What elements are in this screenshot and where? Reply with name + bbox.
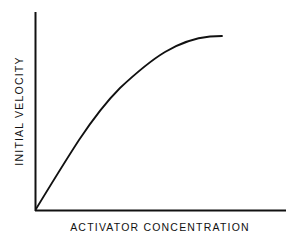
velocity-curve bbox=[36, 36, 222, 209]
chart-canvas bbox=[0, 0, 301, 239]
y-axis-label: INITIAL VELOCITY bbox=[13, 56, 25, 165]
x-axis-label: ACTIVATOR CONCENTRATION bbox=[70, 221, 250, 233]
